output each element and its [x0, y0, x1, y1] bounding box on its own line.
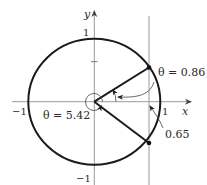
point-lower	[147, 141, 152, 146]
x-tick-pos-label: 1	[162, 106, 168, 117]
angle-arc-upper	[113, 90, 116, 102]
vertical-line-value-label: 0.65	[165, 128, 190, 141]
x-tick-neg-label: −1	[12, 106, 27, 117]
lower-angle-label: θ = 5.42	[43, 109, 90, 122]
point-upper	[147, 65, 152, 70]
radius-upper	[94, 68, 149, 102]
x-axis-label: x	[182, 105, 189, 118]
y-tick-pos-label: 1	[83, 27, 89, 38]
y-tick-neg-label: −1	[76, 173, 91, 184]
radius-lower	[94, 102, 149, 143]
unit-circle-diagram: y 1 −1 −1 1 x θ = 0.86 θ = 5.42 0.65	[0, 0, 207, 185]
upper-angle-label: θ = 0.86	[158, 66, 205, 79]
y-axis-label: y	[83, 8, 91, 21]
